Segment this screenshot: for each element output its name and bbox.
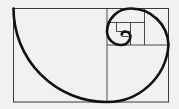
golden-spiral-canvas [0,0,179,109]
golden-spiral-figure [0,0,179,109]
